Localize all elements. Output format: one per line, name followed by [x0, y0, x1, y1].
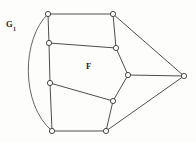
vertex-v9[interactable] — [49, 128, 54, 133]
vertex-v5[interactable] — [47, 80, 52, 85]
graph-canvas — [0, 0, 196, 142]
vertex-v7[interactable] — [181, 73, 186, 78]
edge-v3-v5 — [49, 43, 50, 83]
edge-v2-v7 — [113, 14, 184, 76]
graph-name-label: G1 — [6, 20, 16, 31]
edge-v3-v4 — [49, 43, 116, 48]
edge-v1-v3 — [48, 14, 49, 43]
edge-v2-v4 — [113, 14, 116, 48]
graph-name-subscript: 1 — [13, 26, 16, 32]
edge-v6-v7 — [128, 75, 184, 76]
vertex-v8[interactable] — [110, 98, 115, 103]
vertex-v6[interactable] — [125, 72, 130, 77]
vertex-v1[interactable] — [45, 11, 50, 16]
edge-v5-v9 — [50, 83, 52, 131]
edge-v5-v8 — [50, 83, 113, 101]
vertex-v2[interactable] — [110, 11, 115, 16]
vertex-v10[interactable] — [103, 128, 108, 133]
graph-figure: G1 F — [0, 0, 196, 142]
vertex-v3[interactable] — [46, 40, 51, 45]
edge-v4-v6 — [116, 48, 128, 75]
face-label-f: F — [86, 62, 91, 71]
vertex-v4[interactable] — [113, 45, 118, 50]
graph-name-base: G — [6, 19, 13, 29]
edge-v10-v7 — [106, 76, 184, 131]
edge-v6-v8 — [113, 75, 128, 101]
